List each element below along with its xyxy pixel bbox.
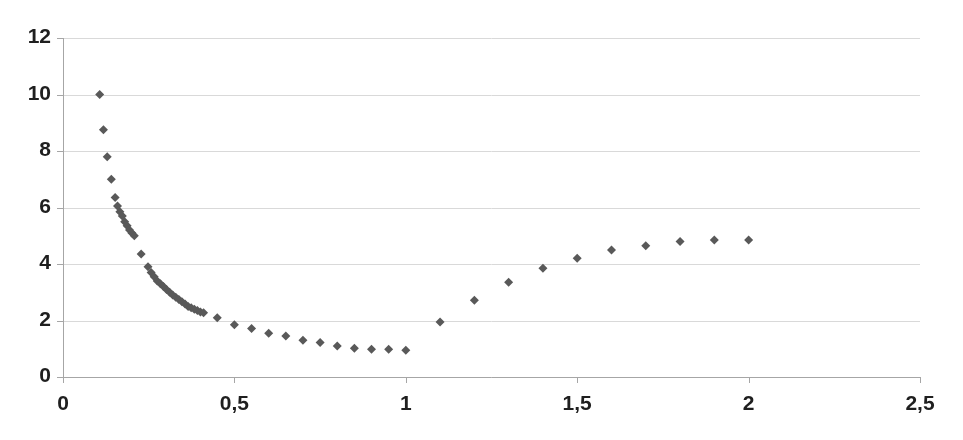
x-axis-tick-label: 1 bbox=[366, 391, 446, 415]
y-axis-tick-label: 12 bbox=[28, 24, 51, 48]
y-axis-tick-label: 0 bbox=[39, 363, 51, 387]
x-axis-tick-label: 1,5 bbox=[537, 391, 617, 415]
x-axis-tick-label: 0,5 bbox=[194, 391, 274, 415]
y-axis-tick-label: 8 bbox=[39, 137, 51, 161]
y-axis-tick-label: 2 bbox=[39, 307, 51, 331]
plot-area bbox=[0, 0, 963, 440]
x-axis-tick-label: 2,5 bbox=[880, 391, 960, 415]
y-axis-tick-label: 10 bbox=[28, 81, 51, 105]
x-axis-tick-label: 0 bbox=[23, 391, 103, 415]
y-axis-tick-label: 4 bbox=[39, 250, 51, 274]
y-axis-tick-label: 6 bbox=[39, 194, 51, 218]
x-axis-tick-label: 2 bbox=[709, 391, 789, 415]
scatter-chart: 02468101200,511,522,5 bbox=[0, 0, 963, 440]
